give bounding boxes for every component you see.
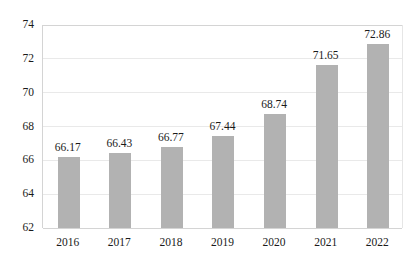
bar-value-label: 66.17 <box>55 141 81 153</box>
bar[interactable] <box>58 157 80 228</box>
bar-chart: 6264666870727466.17201666.43201766.77201… <box>0 0 420 268</box>
y-axis-tick-label: 72 <box>8 53 34 65</box>
bar-value-label: 66.43 <box>106 137 132 149</box>
y-axis-tick-label: 70 <box>8 87 34 99</box>
bar-value-label: 67.44 <box>210 120 236 132</box>
bar-slot <box>146 25 198 228</box>
bar-value-label: 72.86 <box>364 28 390 40</box>
y-axis-tick-label: 68 <box>8 121 34 133</box>
bar-value-label: 66.77 <box>158 131 184 143</box>
y-axis-tick-label: 62 <box>8 222 34 234</box>
x-axis-tick-label: 2022 <box>366 236 389 248</box>
bar-value-label: 71.65 <box>313 49 339 61</box>
x-axis-tick-label: 2018 <box>159 236 182 248</box>
y-axis-tick-label: 74 <box>8 19 34 31</box>
bar-value-label: 68.74 <box>261 98 287 110</box>
bar-slot <box>43 25 95 228</box>
bar[interactable] <box>212 136 234 228</box>
bar[interactable] <box>109 153 131 228</box>
bar[interactable] <box>367 44 389 228</box>
x-axis-tick-label: 2021 <box>314 236 337 248</box>
bar[interactable] <box>264 114 286 228</box>
y-axis-tick-label: 64 <box>8 188 34 200</box>
x-axis-tick-label: 2016 <box>56 236 79 248</box>
bar[interactable] <box>316 65 338 228</box>
bar-slot <box>249 25 301 228</box>
y-axis-tick-label: 66 <box>8 154 34 166</box>
x-axis-tick-label: 2017 <box>108 236 131 248</box>
x-axis-tick-label: 2020 <box>263 236 286 248</box>
bar-slot <box>95 25 147 228</box>
x-axis-tick-label: 2019 <box>211 236 234 248</box>
bar-slot <box>352 25 404 228</box>
bar[interactable] <box>161 147 183 228</box>
